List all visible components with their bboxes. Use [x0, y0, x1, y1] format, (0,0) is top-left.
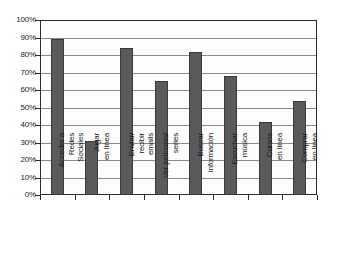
x-axis-category-label-text: Ver películas/series — [161, 133, 180, 203]
y-axis-tick-label: 90% — [2, 34, 36, 42]
y-axis-tick-label: 100% — [2, 16, 36, 24]
y-axis-tick-label: 10% — [2, 174, 36, 182]
x-axis-category-label-line: Acceder a — [57, 133, 67, 203]
x-axis-category-label-line: emails — [146, 133, 156, 203]
x-axis-category-label-line: Cursos — [265, 133, 275, 203]
x-axis-category-label-text: Compraren línea — [300, 133, 319, 203]
x-axis-category-label: Jugaren línea — [75, 203, 109, 273]
x-axis-category-label-line: Sociales — [76, 133, 86, 203]
x-axis-category-label-text: Escucharmúsica — [230, 133, 249, 203]
x-axis-category-label: Compraren línea — [283, 203, 317, 273]
x-axis-category-label-line: en línea — [101, 133, 111, 203]
y-axis-tick-label: 0% — [2, 191, 36, 199]
bar-chart: 0%10%20%30%40%50%60%70%80%90%100% Accede… — [0, 0, 337, 275]
x-axis-category-label: Buscarinformación — [179, 203, 213, 273]
x-axis-category-label-line: series — [171, 133, 181, 203]
x-axis-category-label: Enviar/recibiremails — [110, 203, 144, 273]
x-axis-category-label-text: Cursosen línea — [265, 133, 284, 203]
x-axis-category-label-line: recibir — [136, 133, 146, 203]
x-axis-category-label-line: Comprar — [300, 133, 310, 203]
x-axis-category-label-text: Acceder aRedesSociales — [57, 133, 86, 203]
x-axis-tick-mark — [40, 195, 41, 200]
x-axis-category-label: Cursosen línea — [248, 203, 282, 273]
x-axis-category-label-line: Ver películas/ — [161, 133, 171, 203]
y-axis-tick-label: 70% — [2, 69, 36, 77]
x-axis-category-label-line: música — [240, 133, 250, 203]
y-axis-tick-label: 40% — [2, 121, 36, 129]
y-axis-tick-label: 20% — [2, 156, 36, 164]
x-axis-category-label-line: Redes — [67, 133, 77, 203]
x-axis-category-label-line: Escuchar — [230, 133, 240, 203]
y-axis-tick-label: 30% — [2, 139, 36, 147]
x-axis-category-label: Ver películas/series — [144, 203, 178, 273]
x-axis-category-label-text: Buscarinformación — [196, 133, 215, 203]
x-axis-category-label: Acceder aRedesSociales — [40, 203, 74, 273]
x-axis-category-label-line: Enviar/ — [127, 133, 137, 203]
x-axis-category-label-line: Jugar — [92, 133, 102, 203]
x-axis-category-label-text: Enviar/recibiremails — [127, 133, 156, 203]
x-axis-category-label-line: en línea — [275, 133, 285, 203]
x-axis-category-label-text: Jugaren línea — [92, 133, 111, 203]
y-axis-tick-label: 60% — [2, 86, 36, 94]
x-axis-category-label-line: Buscar — [196, 133, 206, 203]
y-axis-tick-label: 80% — [2, 51, 36, 59]
x-axis-category-label-line: en línea — [309, 133, 319, 203]
y-axis-tick-label: 50% — [2, 104, 36, 112]
x-axis-category-label-line: información — [205, 133, 215, 203]
x-axis-category-label: Escucharmúsica — [213, 203, 247, 273]
